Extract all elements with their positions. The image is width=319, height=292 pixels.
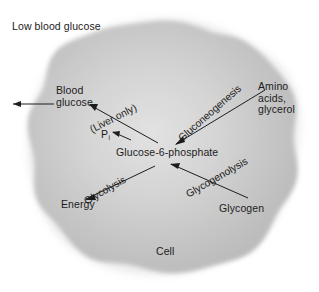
cell-label: Cell: [156, 246, 175, 258]
node-label-amino-acids-glycerol: Amino acids, glycerol: [258, 81, 295, 116]
node-label-glycogen: Glycogen: [219, 203, 264, 215]
diagram-canvas: Low blood glucose Blood glucose Amino ac…: [0, 0, 319, 292]
figure-title: Low blood glucose: [12, 21, 101, 33]
node-label-glucose-6-phosphate: Glucose-6-phosphate: [116, 147, 218, 159]
node-label-inorganic-phosphate: Pi: [101, 129, 110, 142]
node-label-blood-glucose: Blood glucose: [56, 85, 93, 108]
phosphate-subscript: i: [108, 134, 110, 141]
